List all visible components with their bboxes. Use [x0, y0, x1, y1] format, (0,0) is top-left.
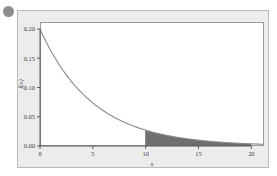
pdf-curve-path	[40, 29, 264, 144]
y-tick-label-2: 0.10	[24, 84, 35, 91]
x-tick-label-4: 20	[248, 150, 254, 157]
y-tick-label-3: 0.15	[24, 55, 35, 62]
x-axis-title: x	[150, 160, 154, 167]
figure-container: 05101520 0.000.050.100.150.20 x f(x)	[0, 0, 277, 176]
y-tick-labels: 0.000.050.100.150.20	[24, 25, 35, 149]
y-tick-label-1: 0.05	[24, 113, 35, 120]
x-tick-label-0: 0	[38, 150, 41, 157]
figure-card: 05101520 0.000.050.100.150.20 x f(x)	[17, 10, 269, 168]
axes	[40, 29, 251, 146]
x-tick-labels: 05101520	[38, 150, 254, 157]
y-tick-label-4: 0.20	[24, 25, 35, 32]
y-tick-label-0: 0.00	[24, 142, 35, 149]
pdf-curve	[40, 29, 264, 144]
y-axis-title: f(x)	[18, 79, 25, 88]
x-tick-label-3: 15	[195, 150, 201, 157]
tick-marks	[37, 29, 251, 149]
x-tick-label-1: 5	[91, 150, 94, 157]
x-tick-label-2: 10	[142, 150, 148, 157]
bullet-dot-icon	[3, 6, 14, 17]
exponential-pdf-chart: 05101520 0.000.050.100.150.20 x f(x)	[18, 11, 270, 169]
